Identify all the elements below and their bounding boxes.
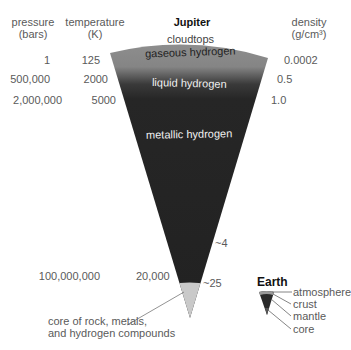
- core-label-line2: and hydrogen compounds: [48, 327, 175, 339]
- earth-wedge-icon: [259, 291, 292, 329]
- density-header-line2: (g/cm³): [276, 28, 342, 40]
- cloudtops-label: cloudtops: [167, 33, 214, 45]
- earth-crust-label: crust: [293, 298, 317, 310]
- density-header-line1: density: [276, 16, 342, 28]
- metallic-hydrogen-label: metallic hydrogen: [146, 127, 232, 141]
- core-density-value: ~25: [203, 277, 222, 289]
- deep-density-value: ~4: [215, 237, 228, 249]
- earth-core-label: core: [293, 323, 314, 335]
- core-pressure-value: 100,000,000: [0, 270, 100, 282]
- pressure-value: 1: [0, 54, 50, 66]
- pressure-header: pressure (bars): [8, 16, 58, 40]
- pressure-value: 500,000: [0, 73, 50, 85]
- wedge-layers: [100, 30, 280, 330]
- pressure-header-line1: pressure: [8, 16, 58, 28]
- density-value: 0.0002: [284, 54, 318, 66]
- pressure-header-line2: (bars): [8, 28, 58, 40]
- temperature-value: 2000: [60, 73, 108, 85]
- temperature-header-line2: (K): [64, 28, 126, 40]
- density-header: density (g/cm³): [276, 16, 342, 40]
- core-label-line1: core of rock, metals,: [48, 315, 175, 327]
- density-value: 0.5: [277, 73, 292, 85]
- core-label: core of rock, metals, and hydrogen compo…: [48, 315, 175, 339]
- core-temperature-value: 20,000: [136, 270, 170, 282]
- pressure-value: 2,000,000: [0, 94, 62, 106]
- jupiter-title: Jupiter: [160, 16, 224, 28]
- temperature-header: temperature (K): [64, 16, 126, 40]
- earth-mantle-label: mantle: [293, 310, 326, 322]
- temperature-value: 5000: [60, 94, 116, 106]
- temperature-value: 125: [60, 54, 100, 66]
- liquid-hydrogen-label: liquid hydrogen: [152, 76, 227, 90]
- temperature-header-line1: temperature: [64, 16, 126, 28]
- earth-title: Earth: [257, 276, 288, 288]
- earth-atmosphere-label: atmosphere: [293, 286, 351, 298]
- density-value: 1.0: [271, 94, 286, 106]
